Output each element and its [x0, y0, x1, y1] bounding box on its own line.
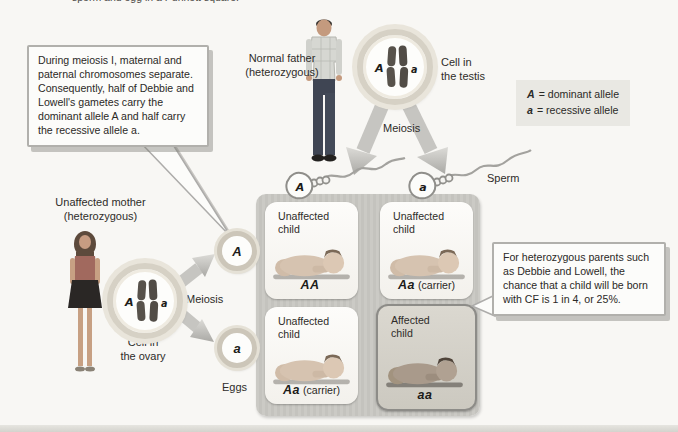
eggs-label: Eggs — [222, 381, 247, 395]
legend-recessive-symbol: a — [527, 104, 533, 116]
genotype-label: Aa(carrier) — [265, 383, 358, 397]
father-label-line1: Normal father — [227, 52, 337, 66]
testis-chromosomes: A a — [363, 35, 427, 99]
ovary-cell: A a — [107, 263, 183, 339]
meiosis-arrow-mother-down — [180, 313, 214, 342]
sperm-allele-A: A — [295, 181, 305, 194]
father-figure — [299, 17, 349, 170]
probability-note-callout: For heterozygous parents such as Debbie … — [492, 242, 666, 316]
ovary-cell-label-line2: the ovary — [108, 350, 178, 364]
page-bottom-band — [0, 425, 678, 432]
father-meiosis-label: Meiosis — [383, 122, 420, 136]
meiosis-note-text: During meiosis I, maternal and paternal … — [38, 54, 194, 136]
mother-label: Unaffected mother (heterozygous) — [23, 196, 178, 224]
mother-meiosis-label: Meiosis — [186, 293, 223, 307]
testis-cell-label-line1: Cell in — [441, 56, 485, 70]
punnett-cell-Aa-bottom: Unaffected child Aa(carrier) — [265, 307, 358, 404]
testis-allele-A: A — [374, 62, 384, 75]
baby-photo-affected — [382, 344, 467, 392]
child-status-label: Unaffected child — [380, 202, 461, 236]
testis-cell-label: Cell in the testis — [441, 56, 485, 84]
ovary-chromosomes: A a — [113, 269, 177, 333]
legend-recessive-row: a= recessive allele — [527, 103, 619, 119]
figure-caption-clipped: sperm and egg in a Punnett square. — [0, 0, 678, 6]
figure-punnett-square-inheritance: sperm and egg in a Punnett square. — [0, 0, 678, 432]
punnett-cell-aa-affected: Affected child aa — [376, 304, 477, 411]
meiosis-arrow-mother-up — [180, 254, 215, 283]
sperm-allele-a: a — [419, 181, 426, 194]
genotype-label: aa — [378, 388, 475, 402]
legend-dominant-row: A= dominant allele — [527, 87, 619, 103]
meiosis-arrow-father-right — [409, 106, 448, 174]
allele-legend: A= dominant allele a= recessive allele — [516, 80, 630, 126]
legend-dominant-text: = dominant allele — [539, 88, 619, 100]
father-label-line2: (heterozygous) — [227, 66, 337, 80]
genotype-label: AA — [265, 278, 358, 292]
child-status-label: Unaffected child — [265, 202, 346, 236]
testis-cell: A a — [357, 29, 433, 105]
legend-dominant-symbol: A — [527, 88, 535, 100]
ovary-cell-label: Cell in the ovary — [108, 336, 178, 364]
child-status-label: Unaffected child — [265, 307, 346, 341]
ovary-allele-A: A — [124, 296, 134, 309]
baby-photo-unaffected — [269, 236, 354, 284]
probability-note-text: For heterozygous parents such as Debbie … — [503, 251, 649, 305]
testis-cell-label-line2: the testis — [441, 70, 485, 84]
legend-recessive-text: = recessive allele — [537, 104, 619, 116]
baby-photo-unaffected — [384, 236, 469, 284]
meiosis-note-callout: During meiosis I, maternal and paternal … — [27, 45, 209, 147]
punnett-cell-Aa-top: Unaffected child Aa(carrier) — [380, 202, 473, 299]
figure-caption-text: sperm and egg in a Punnett square. — [72, 0, 239, 3]
mother-figure — [57, 228, 113, 376]
testis-allele-a: a — [411, 64, 417, 75]
baby-photo-unaffected — [269, 341, 354, 389]
meiosis-arrow-father-left — [346, 106, 382, 175]
mother-label-line1: Unaffected mother — [23, 196, 178, 210]
meiosis-note-pointer — [141, 143, 236, 241]
egg-cell-A: A — [217, 231, 257, 271]
genotype-label: Aa(carrier) — [380, 278, 473, 292]
punnett-cell-AA: Unaffected child AA — [265, 202, 358, 299]
sperm-label: Sperm — [487, 172, 519, 186]
egg-cell-a: a — [217, 328, 257, 368]
ovary-allele-a: a — [161, 298, 167, 309]
child-status-label: Affected child — [378, 306, 459, 340]
mother-label-line2: (heterozygous) — [23, 210, 178, 224]
father-label: Normal father (heterozygous) — [227, 52, 337, 80]
